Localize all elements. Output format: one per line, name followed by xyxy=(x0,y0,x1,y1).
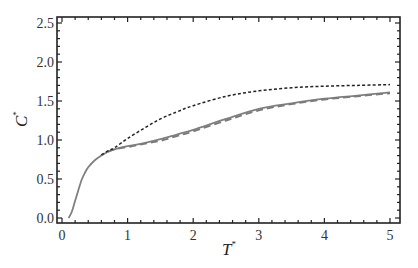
plot-curves xyxy=(69,85,390,218)
y-tick-label: 2.5 xyxy=(37,16,55,31)
y-tick-label: 0.5 xyxy=(37,172,55,187)
x-tick-label: 0 xyxy=(59,228,66,243)
x-axis-label: T* xyxy=(222,239,236,259)
x-tick-label: 3 xyxy=(255,228,262,243)
x-tick-label: 1 xyxy=(124,228,131,243)
y-tick-label: 2.0 xyxy=(37,55,55,70)
series-dashed-line xyxy=(108,93,390,152)
y-tick-label: 1.5 xyxy=(37,94,55,109)
x-tick-label: 5 xyxy=(387,228,394,243)
y-axis-label: C* xyxy=(11,111,31,127)
y-tick-label: 0.0 xyxy=(37,211,55,226)
series-solid-line xyxy=(69,92,390,218)
y-tick-label: 1.0 xyxy=(37,133,55,148)
y-tick-labels: 0.00.51.01.52.02.5 xyxy=(37,16,55,226)
x-tick-label: 4 xyxy=(321,228,328,243)
x-tick-label: 2 xyxy=(190,228,197,243)
chart: 012345 0.00.51.01.52.02.5 T* C* xyxy=(0,0,418,268)
